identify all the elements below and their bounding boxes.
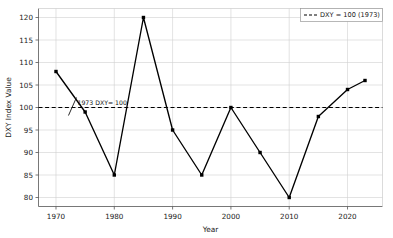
y-tick-label: 105 [19, 81, 33, 90]
y-tick-label: 80 [24, 193, 34, 202]
y-tick-label: 90 [24, 148, 34, 157]
plot-area: 80859095100105110115120 1970198019902000… [19, 9, 382, 221]
y-tick-label: 95 [24, 126, 33, 135]
x-tick-label: 2010 [280, 212, 299, 221]
chart-figure: 80859095100105110115120 1970198019902000… [0, 0, 393, 238]
x-tick-label: 1970 [47, 212, 66, 221]
y-axis-title: DXY Index Value [4, 77, 13, 138]
x-axis-title: Year [202, 225, 220, 234]
data-point-marker [142, 16, 145, 19]
legend-entry-label: DXY = 100 (1973) [320, 11, 380, 19]
x-tick-label: 2020 [338, 212, 357, 221]
data-point-marker [363, 79, 366, 82]
data-point-marker [54, 70, 57, 73]
data-point-marker [200, 173, 203, 176]
data-point-marker [171, 128, 174, 131]
y-tick-label: 115 [19, 36, 33, 45]
line-chart: 80859095100105110115120 1970198019902000… [0, 0, 393, 238]
x-tick-label: 1990 [163, 212, 182, 221]
data-point-marker [229, 106, 232, 109]
y-tick-label: 100 [19, 103, 33, 112]
data-point-marker [317, 115, 320, 118]
y-tick-label: 110 [19, 58, 33, 67]
data-point-marker [346, 88, 349, 91]
x-tick-label: 2000 [222, 212, 241, 221]
y-tick-label: 85 [24, 171, 33, 180]
data-point-marker [83, 110, 86, 113]
y-tick-label: 120 [19, 13, 33, 22]
legend[interactable]: DXY = 100 (1973) [301, 9, 383, 22]
annotation-label: 1973 DXY= 100 [77, 99, 127, 106]
x-tick-label: 1980 [105, 212, 124, 221]
data-point-marker [258, 151, 261, 154]
data-point-marker [288, 196, 291, 199]
data-point-marker [113, 173, 116, 176]
